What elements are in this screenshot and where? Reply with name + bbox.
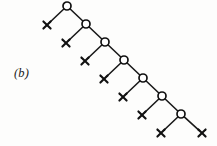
tree-edge bbox=[88, 45, 102, 59]
tree-leaf-x-mark bbox=[62, 39, 69, 46]
panel-label: (b) bbox=[14, 66, 29, 81]
tree-internal-node-circle bbox=[101, 38, 109, 46]
tree-edge bbox=[50, 9, 64, 23]
tree-edge bbox=[126, 81, 140, 95]
tree-leaf-x-mark bbox=[138, 111, 145, 118]
tree-edge bbox=[107, 63, 121, 77]
tree-edge bbox=[184, 117, 199, 131]
tree-leaf-x-mark bbox=[198, 129, 205, 136]
binary-tree-diagram bbox=[0, 0, 217, 146]
tree-leaf-x-mark bbox=[100, 75, 107, 82]
tree-edge bbox=[164, 117, 178, 131]
tree-edge bbox=[127, 63, 140, 76]
figure-panel: (b) bbox=[0, 0, 217, 146]
tree-edge bbox=[69, 27, 83, 41]
tree-edge bbox=[165, 99, 178, 112]
tree-internal-node-circle bbox=[177, 110, 185, 118]
tree-leaf-x-mark bbox=[119, 93, 126, 100]
tree-edge bbox=[145, 99, 159, 113]
tree-internal-node-circle bbox=[63, 2, 71, 10]
tree-edge bbox=[108, 45, 121, 58]
tree-edge bbox=[146, 81, 159, 94]
tree-leaf-x-mark bbox=[157, 129, 164, 136]
tree-leaf-marks-layer bbox=[43, 21, 205, 136]
tree-internal-node-circle bbox=[139, 74, 147, 82]
tree-leaf-x-mark bbox=[43, 21, 50, 28]
tree-internal-node-circle bbox=[120, 56, 128, 64]
tree-leaf-x-mark bbox=[81, 57, 88, 64]
tree-internal-node-circle bbox=[158, 92, 166, 100]
tree-internal-node-circle bbox=[82, 20, 90, 28]
tree-edge bbox=[89, 27, 102, 40]
tree-edge bbox=[70, 9, 83, 22]
